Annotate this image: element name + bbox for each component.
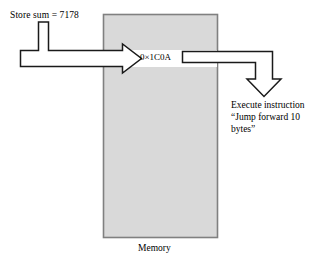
memory-caption: Memory xyxy=(138,243,171,254)
memory-cell-value: 0×1C0A xyxy=(140,52,171,63)
memory-diagram: Store sum = 7178 0×1C0A Execute instruct… xyxy=(0,0,327,267)
execute-instruction-note: Execute instruction “Jump forward 10 byt… xyxy=(231,100,327,136)
store-sum-label: Store sum = 7178 xyxy=(10,10,79,21)
memory-block xyxy=(104,15,218,238)
